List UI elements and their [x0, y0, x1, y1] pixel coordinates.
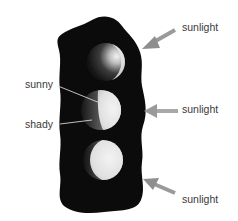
- sunlight-arrow-bottom: [143, 178, 175, 193]
- sunlight-label-bottom: sunlight: [182, 194, 218, 205]
- sunlight-label-top: sunlight: [182, 22, 218, 33]
- diagram: sunny shady sunlight sunlight sunlight: [0, 0, 238, 221]
- sunlight-label-middle: sunlight: [182, 104, 218, 115]
- shady-label: shady: [25, 119, 53, 130]
- sunlight-arrow-middle: [144, 104, 178, 118]
- sunlight-arrow-top: [142, 30, 175, 49]
- sunny-label: sunny: [25, 79, 53, 90]
